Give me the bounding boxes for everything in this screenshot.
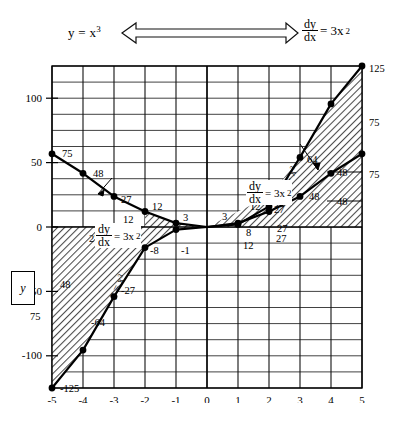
x-tick-2: 2 xyxy=(266,394,272,403)
header-left-exponent: 3 xyxy=(96,24,101,34)
y-tick-0: 0 xyxy=(37,221,43,233)
callout-right-fraction: dy dx xyxy=(247,180,263,205)
header-right-exponent: 2 xyxy=(346,26,351,36)
cubic-label-xm2: -8 xyxy=(150,245,159,256)
deriv-label-x3: 27 xyxy=(274,204,285,215)
double-headed-arrow xyxy=(120,20,300,46)
area-label-right-small: 12 xyxy=(243,240,254,251)
cubic-label-xm5: -125 xyxy=(60,383,79,394)
x-tick-5: 5 xyxy=(359,394,365,403)
callout-left-fraction: dy dx xyxy=(96,223,112,248)
area-label-left-inner: 48 xyxy=(60,279,71,290)
x-tick-m2: -2 xyxy=(140,394,149,403)
header-left-equation-text: y = x xyxy=(68,25,96,40)
area-label-right-outer: 75 xyxy=(369,117,380,128)
dydx-denominator: dx xyxy=(302,31,318,43)
callout-right-numerator: dy xyxy=(247,180,263,192)
cubic-label-x2: 8 xyxy=(246,227,251,238)
y-axis-label: y xyxy=(20,281,25,296)
x-tick-1: 1 xyxy=(235,394,241,403)
x-tick-m3: -3 xyxy=(109,394,119,403)
callout-right-equals: = 3x xyxy=(265,187,285,199)
x-tick-m1: -1 xyxy=(171,394,180,403)
x-tick-4: 4 xyxy=(328,394,334,403)
callout-left-exponent: 2 xyxy=(136,231,141,241)
callout-derivative-left: dy dx = 3x2 xyxy=(95,223,141,248)
cubic-label-xm3: -27 xyxy=(121,285,135,296)
deriv-label-xm5: 75 xyxy=(62,148,73,159)
deriv-label-xm4: 48 xyxy=(93,168,104,179)
area-label-right-mid: 27 xyxy=(276,233,287,244)
x-tick-3: 3 xyxy=(297,394,303,403)
area-label-left-outer: 75 xyxy=(30,311,41,322)
x-tick-m4: -4 xyxy=(78,394,88,403)
y-tick-100: 100 xyxy=(26,92,43,104)
y-tick-50: 50 xyxy=(31,156,43,168)
deriv-label-xm2: 12 xyxy=(152,201,163,212)
callout-left-equals: = 3x xyxy=(114,230,134,242)
callout-right-exponent: 2 xyxy=(287,188,292,198)
y-axis-label-box: y xyxy=(11,271,35,305)
deriv-label-xm3: 27 xyxy=(121,194,132,205)
callout-derivative-right: dy dx = 3x2 xyxy=(246,180,292,205)
header-left-equation: y = x3 xyxy=(68,24,101,41)
header-right-equals: = 3x xyxy=(320,23,344,39)
deriv-label-x5: 75 xyxy=(369,169,380,180)
header-equation-strip: y = x3 dy dx = 3x2 xyxy=(0,6,408,58)
chart-plot-area: 100 50 0 -50 -100 -5 -4 -3 -2 -1 0 1 2 3… xyxy=(0,58,408,403)
callout-left-numerator: dy xyxy=(96,223,112,235)
x-tick-0: 0 xyxy=(204,394,210,403)
header-right-equation: dy dx = 3x2 xyxy=(302,18,350,43)
callout-right-denominator: dx xyxy=(247,193,263,205)
dydx-numerator: dy xyxy=(302,18,318,30)
deriv-label-x1: 3 xyxy=(222,211,227,222)
chart-svg: 100 50 0 -50 -100 -5 -4 -3 -2 -1 0 1 2 3… xyxy=(0,58,408,403)
cubic-label-xm4: -64 xyxy=(91,317,106,328)
callout-left-denominator: dx xyxy=(96,236,112,248)
deriv-label-xm1: 3 xyxy=(183,212,188,223)
cubic-label-x5: 125 xyxy=(369,63,385,74)
cubic-label-xm1: -1 xyxy=(181,245,190,256)
dydx-fraction: dy dx xyxy=(302,18,318,43)
deriv-label-x4: 48 xyxy=(309,191,320,202)
y-tick-m100: -100 xyxy=(22,349,43,361)
x-tick-m5: -5 xyxy=(47,394,57,403)
